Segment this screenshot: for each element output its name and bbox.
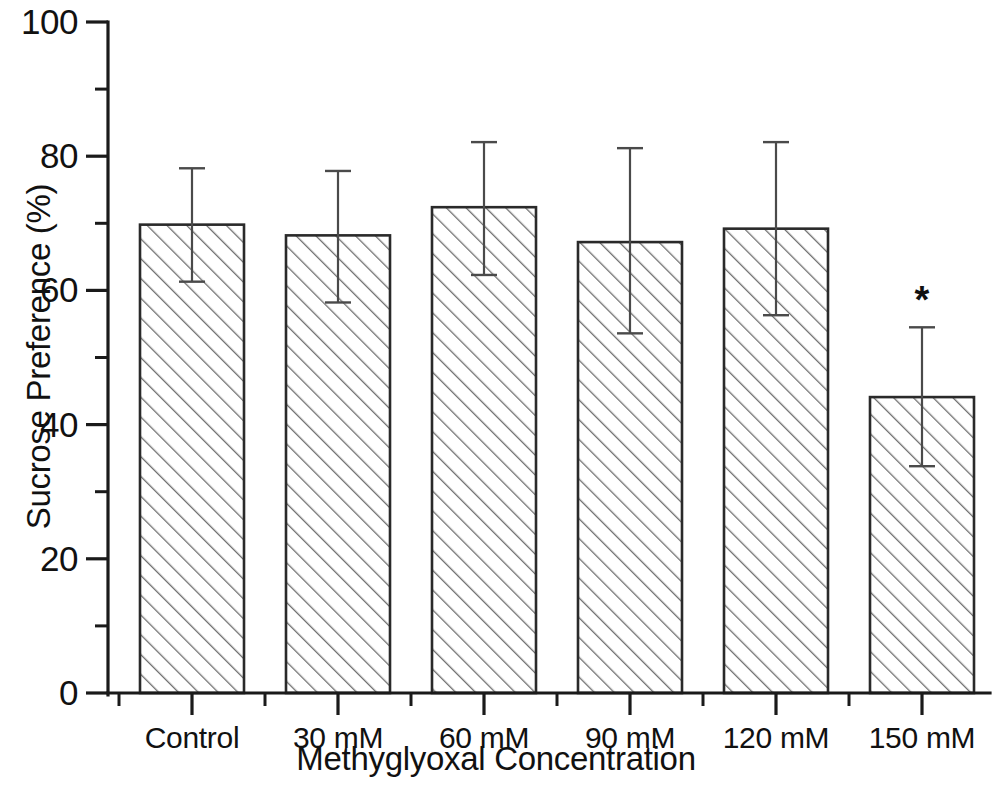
bar [286,235,390,693]
y-axis-tick-label: 0 [0,675,78,710]
y-axis-tick-label: 100 [0,4,78,39]
sucrose-preference-bar-chart: 020406080100 Control30 mM60 mM90 mM120 m… [0,0,992,785]
bar [432,207,536,693]
y-axis-title: Sucrose Preference (%) [22,77,55,637]
y-axis-ticks [86,22,108,693]
x-axis-title: Methyglyoxal Concentration [0,742,992,775]
bar [140,225,244,693]
plot-area [0,0,992,785]
bars-group [140,207,974,693]
x-axis-ticks [119,693,922,715]
significance-asterisk: * [882,281,962,319]
